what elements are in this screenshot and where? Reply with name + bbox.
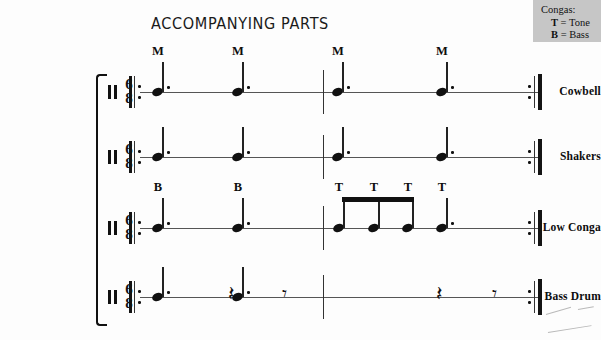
repeat-end-dot-bottom-bass-drum <box>528 301 531 304</box>
repeat-start-thin-bass-drum <box>134 281 135 313</box>
repeat-start-dot-top-shakers <box>138 150 141 153</box>
note-stem <box>242 127 244 157</box>
repeat-end-thick-bass-drum <box>538 279 542 315</box>
articulation-t: T <box>366 180 382 195</box>
repeat-start-dot-top-low-conga <box>138 221 141 224</box>
scan-artifact-3 <box>548 325 592 333</box>
note-stem <box>242 62 244 92</box>
note-stem <box>162 127 164 157</box>
augmentation-dot <box>167 86 170 89</box>
repeat-start-dot-bottom-shakers <box>138 161 141 164</box>
legend-heading: Congas: <box>541 4 599 17</box>
page-title: ACCOMPANYING PARTS <box>0 15 480 32</box>
repeat-end-dot-bottom-cowbell <box>528 96 531 99</box>
augmentation-dot <box>247 151 250 154</box>
note-stem <box>343 198 345 228</box>
articulation-m: M <box>434 44 450 59</box>
legend-symbol-t: T <box>551 17 558 28</box>
measure-barline <box>323 135 324 179</box>
repeat-start-dot-bottom-low-conga <box>138 232 141 235</box>
note-stem <box>446 198 448 228</box>
repeat-start-thick-shakers <box>129 141 132 173</box>
repeat-end-thin-shakers <box>534 141 535 173</box>
repeat-start-thin-low-conga <box>134 212 135 244</box>
scan-artifact-2 <box>578 306 594 310</box>
repeat-end-thick-cowbell <box>538 74 542 110</box>
repeat-end-dot-bottom-shakers <box>528 161 531 164</box>
percussion-clef-shakers <box>108 150 119 164</box>
eighth-rest: 𝄾 <box>282 284 287 303</box>
articulation-m: M <box>330 44 346 59</box>
repeat-end-thin-low-conga <box>534 212 535 244</box>
percussion-clef-low-conga <box>108 221 119 235</box>
repeat-start-dot-top-bass-drum <box>138 290 141 293</box>
repeat-start-thick-bass-drum <box>129 281 132 313</box>
augmentation-dot <box>247 222 250 225</box>
articulation-m: M <box>230 44 246 59</box>
scan-artifact-1 <box>546 307 571 316</box>
repeat-start-thick-low-conga <box>129 212 132 244</box>
articulation-t: T <box>434 180 450 195</box>
augmentation-dot <box>247 291 250 294</box>
note-stem <box>446 127 448 157</box>
repeat-start-thin-shakers <box>134 141 135 173</box>
legend-symbol-b: B <box>551 29 558 40</box>
percussion-clef-bass-drum <box>108 290 119 304</box>
repeat-start-thin-cowbell <box>134 76 135 108</box>
augmentation-dot <box>347 151 350 154</box>
augmentation-dot <box>347 86 350 89</box>
note-stem <box>412 198 414 228</box>
augmentation-dot <box>167 222 170 225</box>
legend-word-tone: Tone <box>569 17 590 28</box>
note-stem <box>446 62 448 92</box>
repeat-end-thin-cowbell <box>534 76 535 108</box>
repeat-end-thick-low-conga <box>538 210 542 246</box>
augmentation-dot <box>167 151 170 154</box>
repeat-end-thin-bass-drum <box>534 281 535 313</box>
legend-equals-0: = <box>560 17 566 28</box>
repeat-start-dot-bottom-bass-drum <box>138 301 141 304</box>
repeat-start-thick-cowbell <box>129 76 132 108</box>
eighth-rest: 𝄾 <box>492 284 497 303</box>
repeat-end-dot-top-shakers <box>528 150 531 153</box>
note-stem <box>242 267 244 297</box>
note-stem <box>162 198 164 228</box>
augmentation-dot <box>451 222 454 225</box>
staff-line-bass-drum <box>140 297 538 298</box>
augmentation-dot <box>451 86 454 89</box>
repeat-start-dot-top-cowbell <box>138 85 141 88</box>
percussion-clef-cowbell <box>108 85 119 99</box>
repeat-end-dot-top-low-conga <box>528 221 531 224</box>
measure-barline <box>323 70 324 114</box>
repeat-end-dot-top-cowbell <box>528 85 531 88</box>
measure-barline <box>323 206 324 250</box>
eighth-beam <box>342 197 414 202</box>
note-stem <box>342 62 344 92</box>
legend-row-bass: B = Bass <box>541 29 599 42</box>
note-stem <box>242 198 244 228</box>
repeat-start-dot-bottom-cowbell <box>138 96 141 99</box>
note-stem <box>162 267 164 297</box>
repeat-end-thick-shakers <box>538 139 542 175</box>
augmentation-dot <box>167 291 170 294</box>
note-stem <box>342 127 344 157</box>
legend-equals-1: = <box>561 29 567 40</box>
articulation-m: M <box>150 44 166 59</box>
legend-word-bass: Bass <box>569 29 589 40</box>
quarter-rest: 𝄽 <box>436 284 442 305</box>
note-stem <box>162 62 164 92</box>
note-stem <box>378 198 380 228</box>
measure-barline <box>323 275 324 319</box>
articulation-t: T <box>331 180 347 195</box>
augmentation-dot <box>451 151 454 154</box>
articulation-t: T <box>400 180 416 195</box>
articulation-b: B <box>150 180 166 195</box>
repeat-end-dot-top-bass-drum <box>528 290 531 293</box>
system-bracket <box>96 74 107 326</box>
legend-row-tone: T = Tone <box>541 17 599 30</box>
repeat-end-dot-bottom-low-conga <box>528 232 531 235</box>
augmentation-dot <box>247 86 250 89</box>
articulation-b: B <box>230 180 246 195</box>
congas-legend-box: Congas: T = Tone B = Bass <box>533 0 601 42</box>
sheet-music-page: ACCOMPANYING PARTS Congas: T = Tone B = … <box>0 0 601 340</box>
